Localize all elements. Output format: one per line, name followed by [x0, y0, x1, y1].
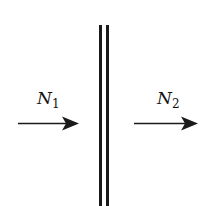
flux-label-main: N [37, 88, 52, 108]
flux-label-n1: N1 [37, 90, 60, 107]
flux-label-subscript: 1 [52, 97, 60, 111]
flux-label-n2: N2 [157, 90, 180, 107]
flux-arrows [0, 0, 222, 206]
flux-label-subscript: 2 [172, 97, 180, 111]
arrow-right-icon [18, 117, 79, 131]
diagram-canvas: N1 N2 [0, 0, 222, 206]
arrow-right-icon [134, 117, 198, 131]
flux-label-main: N [157, 88, 172, 108]
